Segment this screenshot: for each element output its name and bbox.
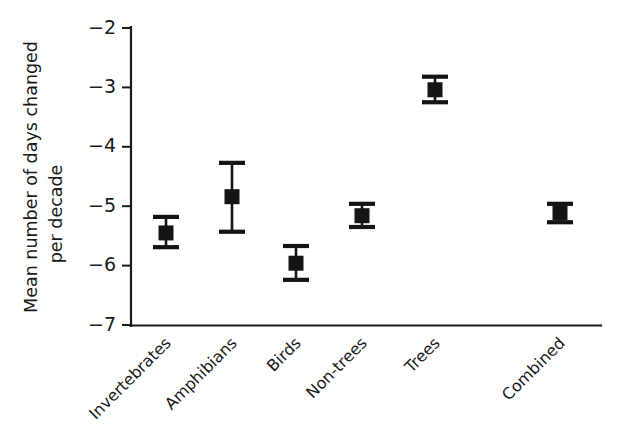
data-point-group xyxy=(219,163,245,232)
data-point-group xyxy=(349,204,375,227)
y-axis-tick-labels: −2 −3 −4 −5 −6 −7 xyxy=(88,16,116,335)
x-tick-label-trees: Trees xyxy=(400,333,444,377)
data-point-group xyxy=(283,246,309,280)
x-tick-label-invertebrates: Invertebrates xyxy=(85,333,175,423)
data-point-group xyxy=(422,77,448,103)
y-tick-label: −3 xyxy=(88,75,116,97)
data-point-group xyxy=(153,217,179,247)
data-point-marker xyxy=(553,205,568,220)
y-tick-label: −5 xyxy=(88,194,116,216)
x-tick-label-combined: Combined xyxy=(498,333,569,404)
y-axis-ticks xyxy=(122,28,131,325)
data-point-marker xyxy=(159,225,174,240)
data-point-group xyxy=(547,204,573,222)
y-tick-label: −2 xyxy=(88,16,116,38)
y-axis-title: Mean number of days changed per decade xyxy=(21,41,66,313)
data-point-marker xyxy=(428,82,443,97)
x-tick-label-non-trees: Non-trees xyxy=(302,333,371,402)
chart-canvas: −2 −3 −4 −5 −6 −7 Mean number of days ch… xyxy=(0,0,629,448)
y-tick-label: −4 xyxy=(88,134,116,156)
data-series xyxy=(153,77,573,280)
y-tick-label: −6 xyxy=(88,253,116,275)
x-axis-tick-labels: InvertebratesAmphibiansBirdsNon-treesTre… xyxy=(85,333,569,423)
y-axis-title-line2: per decade xyxy=(46,165,66,264)
y-axis-title-line1: Mean number of days changed xyxy=(21,41,41,313)
x-tick-label-birds: Birds xyxy=(263,333,305,375)
data-point-marker xyxy=(225,189,240,204)
y-tick-label: −7 xyxy=(88,313,116,335)
data-point-marker xyxy=(289,256,304,271)
chart-figure: −2 −3 −4 −5 −6 −7 Mean number of days ch… xyxy=(0,0,629,448)
data-point-marker xyxy=(355,208,370,223)
